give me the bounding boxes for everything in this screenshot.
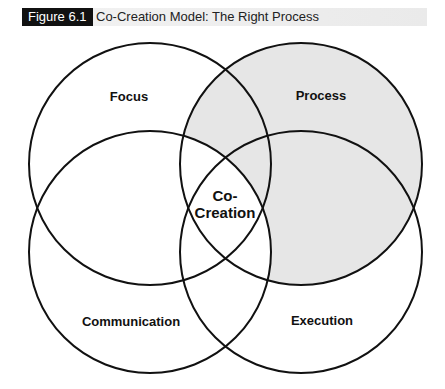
process-label: Process [296, 87, 347, 104]
co-creation-line2: Creation [195, 204, 256, 221]
co-creation-label: Co- Creation [195, 187, 256, 221]
focus-label: Focus [110, 88, 148, 105]
co-creation-clear [29, 131, 271, 373]
co-creation-line1: Co- [195, 187, 256, 204]
execution-label: Execution [291, 312, 353, 329]
communication-label: Communication [82, 313, 180, 330]
